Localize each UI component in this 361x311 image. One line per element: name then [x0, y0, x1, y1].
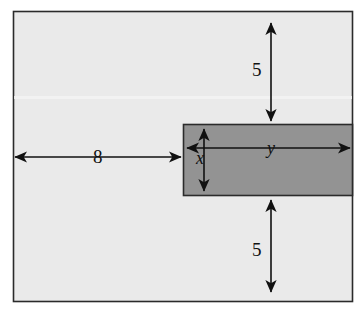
shaded-rect: [184, 125, 353, 196]
dimension-label-bottom-5: 5: [252, 240, 262, 259]
dimension-label-top-5: 5: [252, 60, 262, 79]
dimension-label-8: 8: [93, 147, 103, 166]
scan-band: [14, 96, 352, 99]
dimension-label-x: x: [196, 149, 204, 167]
geometry-figure: 5 5 8 y x: [0, 0, 361, 311]
dimension-label-y: y: [267, 139, 275, 157]
figure-canvas: [0, 0, 361, 311]
